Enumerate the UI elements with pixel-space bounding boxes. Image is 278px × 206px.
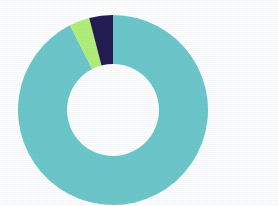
donut-chart xyxy=(0,0,278,206)
donut-center-label xyxy=(68,96,160,124)
